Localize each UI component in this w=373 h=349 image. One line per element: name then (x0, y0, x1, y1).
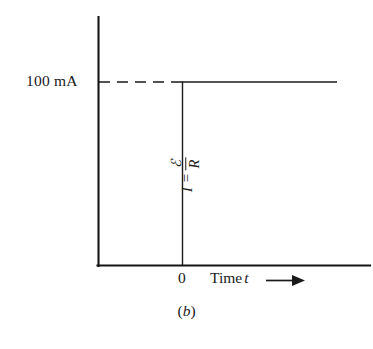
x-axis-title: Timet (210, 270, 248, 286)
x-axis-title-word: Time (210, 269, 242, 286)
figure-caption: (b) (0, 303, 373, 319)
x-axis-tick-label-zero: 0 (178, 270, 186, 286)
y-axis-title-numerator: ℰ (170, 158, 185, 170)
caption-close-paren: ) (190, 302, 195, 319)
y-axis-title-fraction: ℰ R (170, 157, 202, 170)
x-axis-title-variable: t (242, 269, 248, 286)
y-axis-title-equals: = (178, 170, 195, 184)
right-arrow-icon (266, 275, 305, 286)
figure-container: 100 mA I = ℰ R 0 Timet (b) (0, 0, 373, 349)
y-axis-value-label: 100 mA (26, 73, 78, 89)
y-axis-title-denominator: R (186, 157, 202, 170)
y-axis-title-variable: I (178, 185, 196, 192)
